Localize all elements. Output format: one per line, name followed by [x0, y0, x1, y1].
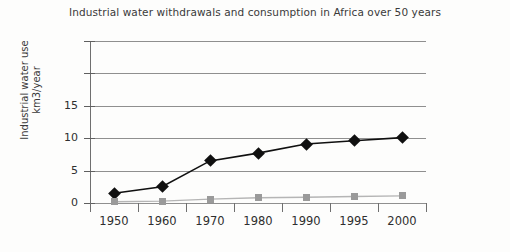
x-axis-tick [282, 203, 283, 212]
chart-screenshot: Industrial water withdrawals and consump… [0, 0, 510, 252]
data-point-marker [399, 192, 406, 199]
y-axis-title: Industrial water use km3/year [19, 25, 43, 155]
x-axis-tick [234, 203, 235, 212]
x-axis-tick [426, 203, 427, 212]
y-axis-tick-label: 15 [44, 99, 78, 112]
x-axis-tick-label: 2000 [377, 214, 427, 228]
x-axis-tick-label: 1980 [233, 214, 283, 228]
data-point-marker [159, 198, 166, 205]
gridline [90, 106, 426, 107]
data-point-marker [351, 193, 358, 200]
gridline [90, 203, 426, 204]
gridline [90, 138, 426, 139]
x-axis-tick [90, 203, 91, 212]
y-axis-tick-label: 0 [44, 196, 78, 209]
y-axis-line [90, 41, 91, 204]
chart-title: Industrial water withdrawals and consump… [0, 6, 510, 18]
y-axis-tick-label: 5 [44, 164, 78, 177]
x-axis-tick [330, 203, 331, 212]
gridline [90, 171, 426, 172]
y-axis-tick [84, 171, 95, 172]
x-axis-tick-label: 1995 [329, 214, 379, 228]
x-axis-tick [378, 203, 379, 212]
x-axis-tick-label: 1990 [281, 214, 331, 228]
x-axis-tick-label: 1970 [185, 214, 235, 228]
gridline [90, 41, 426, 42]
y-axis-tick [84, 41, 95, 42]
plot-area [90, 41, 426, 203]
y-axis-tick-label: 10 [44, 131, 78, 144]
x-axis-tick [186, 203, 187, 212]
data-point-marker [207, 196, 214, 203]
data-point-marker [111, 198, 118, 205]
x-axis-tick-label: 1960 [137, 214, 187, 228]
y-axis-tick [84, 73, 95, 74]
y-axis-tick [84, 106, 95, 107]
y-axis-title-line-1: Industrial water use [19, 25, 31, 155]
data-point-marker [255, 194, 262, 201]
y-axis-title-line-2: km3/year [31, 25, 43, 155]
y-axis-tick [84, 138, 95, 139]
data-point-marker [303, 194, 310, 201]
x-axis-tick-label: 1950 [89, 214, 139, 228]
x-axis-tick [138, 203, 139, 212]
gridline [90, 73, 426, 74]
